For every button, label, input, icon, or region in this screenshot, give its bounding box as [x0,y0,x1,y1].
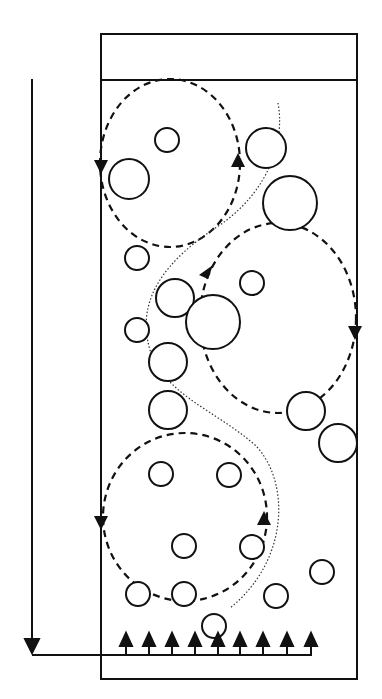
bubble [155,128,179,152]
up-arrow-icon [234,633,246,646]
bubble [109,159,149,199]
gas-sparger [32,633,317,655]
up-arrow-icon [257,511,271,525]
up-arrow-icon [189,633,201,646]
bubble [287,392,325,430]
bubble-column-diagram [0,0,382,699]
up-arrow-icon [305,633,317,646]
bubble [126,582,150,606]
bubble [240,271,264,295]
bubble [217,463,241,487]
up-arrow-icon [143,633,155,646]
bubble [172,582,196,606]
bubble [149,391,187,429]
up-arrow-icon [231,153,245,167]
bubble [186,295,240,349]
bubble [246,128,286,168]
bubble [319,424,357,462]
bubbles [109,128,357,638]
up-arrow-icon [257,633,269,646]
down-arrow-icon [94,516,108,530]
external-downcomer-loop [25,79,39,653]
bubble [125,246,149,270]
up-arrow-icon [120,633,132,646]
bubble [310,560,334,584]
bubble [149,343,187,381]
bubble [263,176,317,230]
down-arrow-icon [94,160,108,174]
bubble [264,584,288,608]
bubble [172,534,196,558]
down-arrow-icon [25,639,39,653]
bubble [125,318,149,342]
down-arrow-icon [348,326,362,340]
bubble [202,614,226,638]
diagonal-arrow-icon [199,265,213,279]
bubble [240,535,264,559]
diagram-canvas [0,0,382,699]
up-arrow-icon [281,633,293,646]
bubble [149,462,173,486]
up-arrow-icon [166,633,178,646]
lower-left-cell [103,433,267,601]
